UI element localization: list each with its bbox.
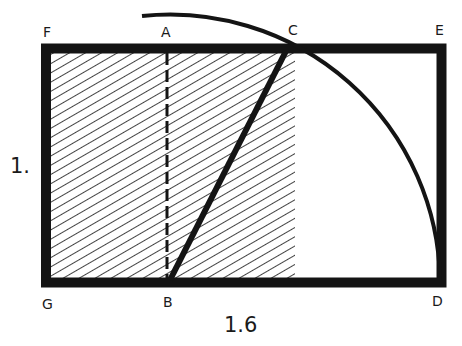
label-point-a: A: [161, 25, 171, 39]
label-point-d: D: [432, 294, 443, 308]
label-point-b: B: [163, 295, 173, 309]
label-point-e: E: [435, 23, 444, 37]
height-dimension-label: 1.: [10, 156, 30, 177]
diagram-canvas: [0, 0, 462, 346]
label-point-g: G: [42, 297, 53, 311]
label-point-c: C: [288, 23, 298, 37]
golden-rectangle-diagram: F A C E G B D 1. 1.6: [0, 0, 462, 346]
label-point-f: F: [43, 25, 51, 39]
hatched-square: [51, 53, 295, 278]
width-dimension-label: 1.6: [224, 315, 257, 336]
